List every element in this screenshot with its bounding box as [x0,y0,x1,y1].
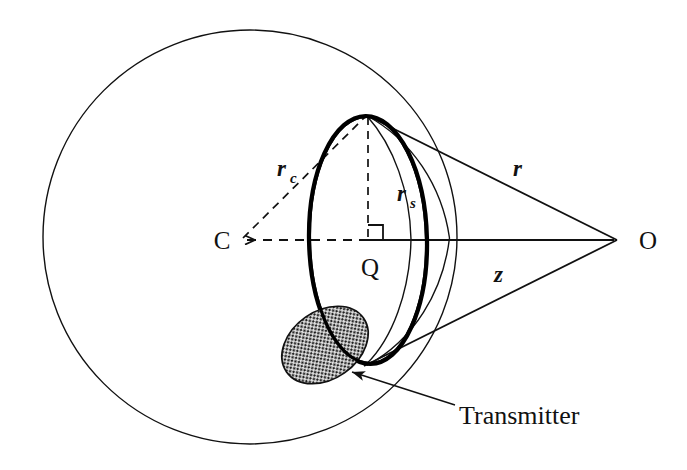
transmitter-patch [267,290,383,400]
transmitter-leader-line [352,372,455,405]
label-axial-distance-z: z [493,262,503,287]
cone-upper-generator [369,117,617,241]
sphere-outline [43,30,457,444]
right-angle-mark [368,225,383,240]
label-cap-center-q: Q [361,254,379,281]
label-transmitter: Transmitter [459,401,580,430]
figure-canvas: C Q O r c r s r z Transmitter [0,0,687,470]
label-radius-cap-base: r [277,156,287,181]
label-radius-cap-sub: c [290,170,297,186]
label-radius-spot-sub: s [409,195,416,211]
diagram-svg: C Q O r c r s r z Transmitter [0,0,687,470]
label-observer-o: O [639,227,657,254]
radius-cap-dashed-line [243,116,366,238]
label-center-c: C [214,227,231,254]
label-radius-cap: r c [277,156,297,186]
label-slant-range-r: r [513,156,523,181]
label-radius-spot-base: r [397,181,407,206]
